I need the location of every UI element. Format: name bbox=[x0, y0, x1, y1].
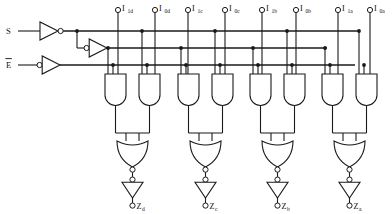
terminal-pin-icon bbox=[367, 7, 372, 12]
data-input-sub-i0c: 0c bbox=[234, 8, 240, 14]
terminal-pin-icon bbox=[259, 7, 264, 12]
and-gate-icon[interactable] bbox=[250, 74, 271, 106]
inversion-bubble-icon bbox=[130, 177, 135, 182]
buffer-triangle-icon[interactable] bbox=[339, 182, 360, 198]
or-gate-icon[interactable] bbox=[190, 141, 221, 167]
wire-junction-dot-icon bbox=[218, 63, 222, 67]
terminal-pin-icon bbox=[115, 7, 120, 12]
and-gates-group bbox=[105, 74, 377, 133]
inversion-bubble-icon bbox=[347, 177, 352, 182]
logic-diagram-canvas: S E I 1d I 0d I 1c I 0c I 1b I 0b I 1a I… bbox=[0, 0, 392, 214]
output-label-za: Z bbox=[354, 202, 359, 211]
data-input-pin-i0c[interactable] bbox=[222, 7, 227, 74]
wire-junction-dot-icon bbox=[290, 63, 294, 67]
and-gate-icon[interactable] bbox=[356, 74, 377, 106]
wire-junction-dot-icon bbox=[106, 46, 110, 50]
enable-input-label: E bbox=[6, 60, 11, 70]
or-gate-icon[interactable] bbox=[334, 141, 365, 167]
bus-tap-wires-group bbox=[106, 29, 366, 74]
data-input-label-i1c: I bbox=[192, 4, 195, 13]
or-gate-icon[interactable] bbox=[262, 141, 293, 167]
wire-junction-dot-icon bbox=[251, 46, 255, 50]
data-input-sub-i0a: 0a bbox=[379, 8, 385, 14]
buffer-triangle-icon bbox=[42, 56, 60, 74]
select-input-stage bbox=[18, 22, 360, 48]
and-to-nor-join-group bbox=[116, 133, 367, 141]
inversion-bubble-icon bbox=[84, 45, 89, 50]
output-sub-zb: b bbox=[287, 206, 290, 212]
inversion-bubble-icon bbox=[130, 167, 135, 172]
wire-junction-dot-icon bbox=[213, 29, 217, 33]
wire-junction-dot-icon bbox=[256, 63, 260, 67]
and-gate-icon[interactable] bbox=[139, 74, 160, 106]
data-input-pin-i0b[interactable] bbox=[293, 7, 298, 74]
inversion-bubble-icon bbox=[58, 28, 63, 33]
data-input-pin-i0a[interactable] bbox=[367, 7, 372, 74]
and-gate-icon[interactable] bbox=[105, 74, 126, 106]
inversion-bubble-icon bbox=[37, 62, 42, 67]
output-labels-group: Z d Z c Z b Z a bbox=[137, 202, 363, 212]
wire-junction-dot-icon bbox=[179, 46, 183, 50]
circuit-schematic-svg: S E I 1d I 0d I 1c I 0c I 1b I 0b I 1a I… bbox=[0, 0, 392, 214]
inversion-bubble-icon bbox=[203, 167, 208, 172]
or-gate-icon[interactable] bbox=[117, 141, 148, 167]
data-input-sub-i1a: 1a bbox=[347, 8, 353, 14]
inversion-bubble-icon bbox=[275, 177, 280, 182]
data-input-label-i1b: I bbox=[266, 4, 269, 13]
data-input-label-i0b: I bbox=[300, 4, 303, 13]
select-input-label: S bbox=[6, 26, 11, 36]
data-input-sub-i0b: 0b bbox=[305, 8, 311, 14]
buffer-triangle-icon[interactable] bbox=[122, 182, 143, 198]
buffer-triangle-icon bbox=[89, 39, 107, 57]
output-label-zb: Z bbox=[282, 202, 287, 211]
buffer-triangle-icon[interactable] bbox=[267, 182, 288, 198]
wire-junction-dot-icon bbox=[184, 63, 188, 67]
data-input-pin-i1a[interactable] bbox=[335, 7, 340, 74]
control-labels-group: S E bbox=[5, 26, 11, 70]
terminal-pin-icon bbox=[152, 7, 157, 12]
terminal-pin-icon[interactable] bbox=[130, 203, 135, 208]
wire-junction-dot-icon bbox=[145, 63, 149, 67]
terminal-pin-icon bbox=[185, 7, 190, 12]
terminal-pin-icon bbox=[222, 7, 227, 12]
and-gate-icon[interactable] bbox=[178, 74, 199, 106]
wire-junction-dot-icon bbox=[285, 29, 289, 33]
output-sub-za: a bbox=[359, 206, 362, 212]
wire-junction-dot-icon bbox=[140, 29, 144, 33]
data-input-sub-i0d: 0d bbox=[164, 8, 170, 14]
data-input-label-i0d: I bbox=[159, 4, 162, 13]
buffer-triangle-icon[interactable] bbox=[195, 182, 216, 198]
and-gate-icon[interactable] bbox=[212, 74, 233, 106]
output-label-zc: Z bbox=[210, 202, 215, 211]
output-label-zd: Z bbox=[137, 202, 142, 211]
terminal-pin-icon[interactable] bbox=[203, 203, 208, 208]
wire-junction-dot-icon bbox=[323, 46, 327, 50]
terminal-pin-icon bbox=[335, 7, 340, 12]
data-input-label-i0c: I bbox=[229, 4, 232, 13]
and-gate-icon[interactable] bbox=[322, 74, 343, 106]
data-input-label-i0a: I bbox=[374, 4, 377, 13]
wire-junction-dot-icon bbox=[111, 63, 115, 67]
data-input-sub-i1c: 1c bbox=[197, 8, 203, 14]
wire-junction-dot-icon bbox=[328, 63, 332, 67]
data-input-pins-group bbox=[115, 7, 372, 74]
output-sub-zd: d bbox=[142, 206, 145, 212]
data-input-sub-i1b: 1b bbox=[271, 8, 277, 14]
output-sub-zc: c bbox=[215, 206, 218, 212]
data-input-pin-i0d[interactable] bbox=[152, 7, 157, 74]
terminal-pin-icon bbox=[293, 7, 298, 12]
data-input-pin-i1d[interactable] bbox=[115, 7, 120, 74]
terminal-pin-icon[interactable] bbox=[275, 203, 280, 208]
data-input-labels-group: I 1d I 0d I 1c I 0c I 1b I 0b I 1a I 0a bbox=[122, 4, 385, 14]
data-input-pin-i1b[interactable] bbox=[259, 7, 264, 74]
data-input-sub-i1d: 1d bbox=[127, 8, 133, 14]
select-inverter-stage bbox=[84, 39, 327, 57]
data-input-label-i1a: I bbox=[342, 4, 345, 13]
terminal-pin-icon[interactable] bbox=[347, 203, 352, 208]
inversion-bubble-icon bbox=[347, 167, 352, 172]
wire-junction-dot-icon bbox=[362, 63, 366, 67]
wire-junction-dot-icon bbox=[357, 29, 361, 33]
buffer-triangle-icon bbox=[40, 22, 58, 40]
nor-gates-group bbox=[117, 141, 365, 177]
and-gate-icon[interactable] bbox=[284, 74, 305, 106]
